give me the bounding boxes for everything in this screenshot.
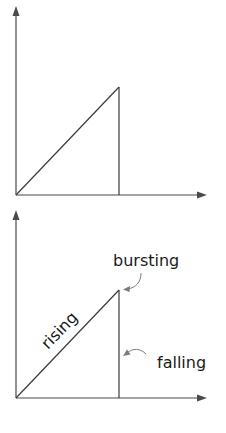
bottom-x-axis-arrow-icon [197,395,207,402]
bottom-diagram: rising bursting falling [13,210,208,402]
falling-pointer-arrow-icon [123,350,131,357]
top-diagram [13,6,208,199]
bubble-phases-diagram: rising bursting falling [0,0,226,433]
bursting-label: bursting [113,251,179,270]
top-y-axis-arrow-icon [13,6,20,16]
falling-label: falling [157,353,206,372]
bottom-y-axis-arrow-icon [13,210,20,220]
top-rising-line [16,87,119,195]
rising-label: rising [37,308,81,353]
falling-pointer [127,349,146,354]
bursting-pointer-arrow-icon [123,286,130,292]
bottom-rising-line [16,290,119,398]
top-x-axis-arrow-icon [197,192,207,199]
